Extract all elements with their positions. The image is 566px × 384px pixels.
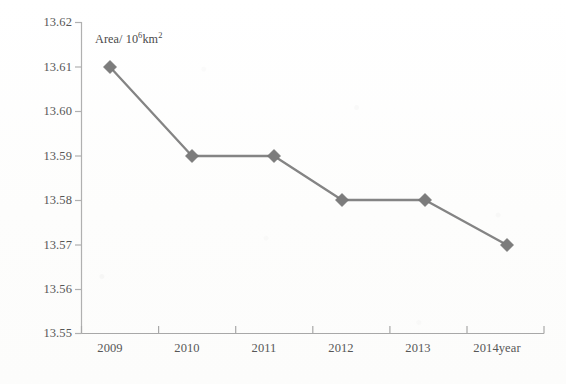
- chart-screenshot: 13.62 13.61 13.60 13.59 13.58 13.57 13.5…: [0, 0, 566, 384]
- x-tick-label-2013: 2013: [388, 341, 448, 356]
- y-tick-label-13-61: 13.61: [20, 60, 72, 75]
- annotation-unit-exponent: 2: [158, 31, 162, 40]
- series-unit-annotation: Area/ 106km2: [95, 32, 162, 47]
- y-axis-ticks: [75, 23, 82, 334]
- x-tick-label-2014-year: 2014year: [459, 341, 535, 356]
- x-tick-label-2012: 2012: [311, 341, 371, 356]
- data-point-2013: [419, 194, 432, 207]
- data-line-area: [110, 67, 507, 245]
- y-tick-label-13-59: 13.59: [20, 149, 72, 164]
- data-point-2012: [336, 194, 349, 207]
- x-tick-label-2009: 2009: [80, 341, 140, 356]
- annotation-unit: km: [142, 32, 158, 46]
- data-point-markers: [104, 61, 514, 252]
- y-tick-label-13-56: 13.56: [20, 282, 72, 297]
- y-tick-label-13-60: 13.60: [20, 104, 72, 119]
- annotation-prefix: Area/ 10: [95, 32, 138, 46]
- y-tick-label-13-55: 13.55: [20, 326, 72, 341]
- data-point-2014: [501, 239, 514, 252]
- x-axis-ticks: [82, 326, 545, 334]
- x-tick-label-2010: 2010: [157, 341, 217, 356]
- y-tick-label-13-62: 13.62: [20, 15, 72, 30]
- data-point-2011: [268, 150, 281, 163]
- x-tick-label-2011: 2011: [234, 341, 294, 356]
- y-tick-label-13-57: 13.57: [20, 238, 72, 253]
- y-tick-label-13-58: 13.58: [20, 193, 72, 208]
- line-chart-plot: [0, 0, 566, 384]
